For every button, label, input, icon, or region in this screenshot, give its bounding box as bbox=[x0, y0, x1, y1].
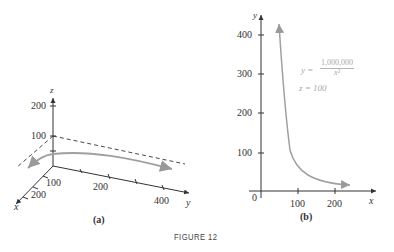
a-y-tick-200: 200 bbox=[93, 182, 108, 192]
equation-lhs: y = bbox=[301, 66, 313, 75]
panel-b bbox=[249, 15, 376, 198]
curve-2d bbox=[279, 24, 290, 150]
equation-denominator: x² bbox=[334, 69, 340, 78]
plane-trace-y bbox=[53, 136, 185, 164]
a-z-axis-label: z bbox=[50, 86, 54, 95]
a-x-tick-100: 100 bbox=[46, 178, 61, 188]
curve-3d bbox=[53, 153, 172, 169]
panel-b-label: (b) bbox=[300, 212, 312, 222]
a-x-tick-200: 200 bbox=[31, 190, 46, 200]
b-y-tick-400: 400 bbox=[237, 30, 252, 40]
b-x-axis-label: x bbox=[369, 196, 373, 206]
a-y-axis-label: y bbox=[186, 198, 190, 208]
a-y-tick-400: 400 bbox=[154, 196, 169, 206]
b-y-tick-100: 100 bbox=[237, 148, 252, 158]
equation-fraction: 1,000,000 x² bbox=[320, 59, 354, 78]
b-x-tick-200: 200 bbox=[327, 199, 342, 209]
b-origin-label: 0 bbox=[252, 193, 257, 203]
b-y-tick-300: 300 bbox=[237, 69, 252, 79]
a-z-tick-200: 200 bbox=[31, 101, 46, 111]
panel-a-label: (a) bbox=[93, 215, 105, 225]
b-x-tick-100: 100 bbox=[290, 199, 305, 209]
figure-caption: FIGURE 12 bbox=[174, 232, 217, 242]
a-x-axis-label: x bbox=[14, 202, 18, 212]
y-axis bbox=[53, 166, 189, 193]
b-y-axis-label: y bbox=[253, 11, 257, 20]
plane-label: z = 100 bbox=[299, 84, 327, 93]
b-y-tick-200: 200 bbox=[237, 108, 252, 118]
a-z-tick-100: 100 bbox=[31, 131, 46, 141]
figure-canvas bbox=[0, 0, 394, 252]
